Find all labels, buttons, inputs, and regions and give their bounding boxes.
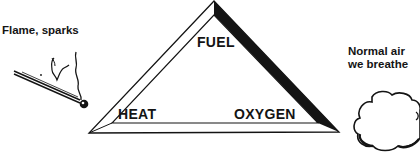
oxygen-source-line2: we breathe <box>348 58 408 71</box>
fire-triangle-figure <box>0 0 420 153</box>
triangle-label-oxygen: OXYGEN <box>234 106 296 122</box>
oxygen-source-line1: Normal air <box>348 45 408 58</box>
triangle-label-fuel: FUEL <box>197 34 235 50</box>
triangle-label-heat: HEAT <box>118 106 156 122</box>
oxygen-source-label: Normal air we breathe <box>348 45 408 71</box>
cloud-icon <box>354 91 420 150</box>
heat-source-label: Flame, sparks <box>2 24 79 36</box>
match-icon <box>14 52 88 108</box>
